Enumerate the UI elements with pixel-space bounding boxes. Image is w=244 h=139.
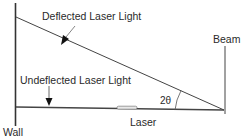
laser-label: Laser: [130, 117, 156, 128]
angle-label: 2θ: [160, 96, 171, 106]
angle-arc: [175, 91, 181, 110]
undeflected-laser-light-label: Undeflected Laser Light: [20, 75, 131, 86]
undeflected-arrow-icon: [46, 98, 53, 106]
laser-body: [117, 106, 137, 109]
wall-label: Wall: [3, 127, 23, 138]
laser-deflection-diagram: Deflected Laser Light Beam Undeflected L…: [0, 0, 244, 139]
deflected-light-line: [16, 17, 224, 110]
deflected-pointer-line: [66, 26, 75, 37]
beam-label: Beam: [213, 34, 240, 45]
deflected-laser-light-label: Deflected Laser Light: [42, 11, 141, 22]
